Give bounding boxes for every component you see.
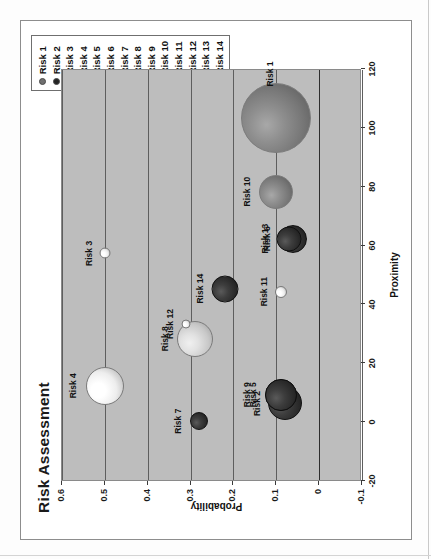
gridline (362, 70, 363, 480)
bubble-label: Risk 9 (242, 382, 251, 407)
x-axis-tick-label: 60 (367, 240, 377, 250)
y-axis-tick-label: -0.1 (356, 489, 366, 521)
x-axis-tick (361, 303, 365, 304)
bubble-risk-9[interactable] (264, 378, 296, 410)
legend-item[interactable]: Risk 1 (36, 41, 50, 85)
x-axis-tick-label: 120 (367, 61, 377, 76)
bubble-risk-14[interactable] (211, 275, 238, 302)
x-axis-tick-label: 100 (367, 120, 377, 135)
x-axis-tick-label: 0 (367, 419, 377, 424)
y-axis-tick (318, 481, 319, 485)
bubble-label: Risk 10 (243, 176, 252, 206)
y-axis-tick-label: 0.1 (270, 489, 280, 521)
x-axis-tick (361, 421, 365, 422)
scanned-page: Risk Assessment Risk 1Risk 2Risk 3Risk 4… (0, 0, 431, 559)
bubble-risk-10[interactable] (259, 174, 293, 208)
rotated-chart-wrapper: Risk Assessment Risk 1Risk 2Risk 3Risk 4… (0, 0, 431, 559)
bubble-label: Risk 11 (259, 277, 268, 306)
bubble-label: Risk 4 (68, 373, 77, 398)
y-axis-tick-label: 0.2 (227, 489, 237, 521)
bubble-label: Risk 3 (84, 240, 93, 265)
bubble-risk-13[interactable] (276, 226, 301, 251)
bubble-risk-12[interactable] (181, 319, 190, 328)
x-axis-tick (361, 126, 365, 127)
y-axis-tick (61, 481, 62, 485)
legend-label: Risk 2 (51, 46, 61, 74)
bubble-risk-1[interactable] (241, 83, 311, 153)
y-axis-tick-label: 0.6 (56, 489, 66, 521)
bubble-risk-11[interactable] (274, 285, 286, 297)
gridline (104, 70, 105, 480)
x-axis-title: Proximity (389, 69, 400, 481)
y-axis-tick-label: 0.4 (141, 489, 151, 521)
gridline (147, 70, 148, 480)
x-axis-tick-label: 80 (367, 181, 377, 191)
bubble-risk-4[interactable] (85, 366, 123, 404)
plot-inner: Risk 1Risk 2Risk 3Risk 4Risk 5Risk 6Risk… (62, 70, 360, 480)
y-axis-title: Probability (161, 500, 271, 511)
y-axis-tick (189, 481, 190, 485)
bubble-label: Risk 14 (195, 273, 204, 303)
page-title: Risk Assessment (35, 382, 53, 513)
y-axis-tick-label: 0.5 (98, 489, 108, 521)
bubble-label: Risk 13 (260, 223, 269, 253)
bubble-risk-7[interactable] (190, 412, 208, 430)
x-axis-tick-label: 20 (367, 358, 377, 368)
x-axis-tick-label: 40 (367, 299, 377, 309)
bubble-risk-3[interactable] (99, 247, 110, 258)
gridline (233, 70, 234, 480)
chart-frame: Risk Assessment Risk 1Risk 2Risk 3Risk 4… (20, 20, 412, 540)
bubble-label: Risk 1 (266, 61, 275, 86)
plot-area: Risk 1Risk 2Risk 3Risk 4Risk 5Risk 6Risk… (61, 69, 361, 481)
bubble-label: Risk 7 (173, 408, 182, 433)
x-axis-tick (361, 68, 365, 69)
legend-marker-icon (52, 78, 59, 85)
y-axis-tick (361, 481, 362, 485)
y-axis-tick (275, 481, 276, 485)
y-axis-tick (232, 481, 233, 485)
gridline (62, 70, 63, 480)
legend-label: Risk 1 (38, 46, 48, 74)
bubble-label: Risk 12 (166, 309, 175, 339)
x-axis-tick (361, 185, 365, 186)
legend-marker-icon (39, 78, 46, 85)
y-axis-tick-label: 0.3 (184, 489, 194, 521)
y-axis-tick (146, 481, 147, 485)
x-axis-tick-label: -20 (367, 474, 377, 487)
y-axis-tick-label: 0 (313, 489, 323, 521)
axis-zero-line (319, 70, 320, 480)
x-axis-tick (361, 362, 365, 363)
y-axis-tick (103, 481, 104, 485)
x-axis-tick (361, 244, 365, 245)
